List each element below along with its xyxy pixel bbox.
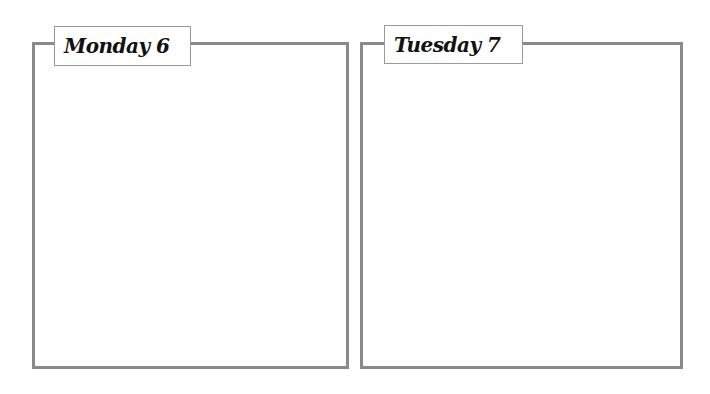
day-label-tuesday: Tuesday 7: [394, 33, 501, 57]
day-label-box-tuesday: Tuesday 7: [384, 25, 523, 64]
day-label-box-monday: Monday 6: [54, 26, 191, 66]
day-label-monday: Monday 6: [64, 34, 169, 58]
day-panel-tuesday[interactable]: [360, 42, 683, 369]
day-panel-monday[interactable]: [32, 42, 349, 369]
